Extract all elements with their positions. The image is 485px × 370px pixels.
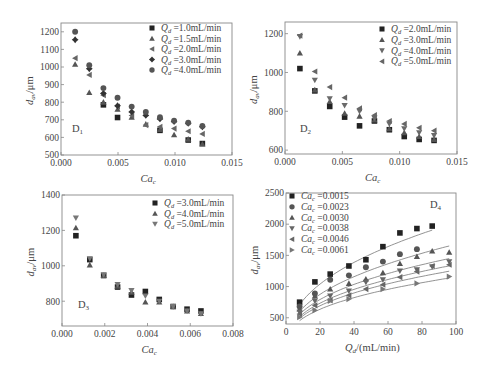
y-tick-label: 500 [45,150,60,160]
series-cac-0-0061 [297,273,452,320]
triangle-left-marker [149,46,154,52]
fit-curve [300,259,450,315]
series-qd-5-0ml-min [73,216,204,317]
triangle-down-marker [379,48,385,53]
square-marker [357,123,363,129]
chart-panel-d1: 0.0000.0050.0100.01550060070080090010001… [24,23,243,186]
triangle-up-marker [72,61,78,67]
x-tick-label: 0.005 [107,158,129,168]
series-cac-0-0030 [297,248,453,312]
y-tick-label: 800 [269,107,284,117]
y-axis-label-group: dav/μm [24,76,37,105]
square-marker [346,263,352,269]
triangle-down-marker [142,293,148,299]
series-qd-3-0ml-min [73,233,204,314]
x-axis-label: Qd/(mL/min) [345,342,400,355]
triangle-up-marker [346,280,352,286]
circle-marker [72,29,78,35]
y-axis-label: dav/μm [25,248,38,277]
diamond-plus-marker [149,56,155,62]
triangle-right-marker [414,280,420,286]
figure-canvas: 0.0000.0050.0100.01550060070080090010001… [0,0,485,370]
y-axis-label: dav/μm [248,75,261,104]
triangle-left-marker [171,126,177,132]
legend-entry: Qd =3.0mL/min [391,35,452,46]
fit-curve [300,246,450,311]
y-tick-label: 1400 [41,190,60,200]
legend-entry: Cac =0.0023 [301,202,349,213]
square-marker [73,233,79,239]
legend-entry: Qd =2.0mL/min [161,44,222,55]
y-tick-label: 1100 [40,45,59,55]
circle-marker [100,85,106,91]
y-tick-label: 1500 [265,251,284,261]
y-tick-label: 500 [270,313,285,323]
x-tick-label: 0.008 [222,329,244,339]
triangle-down-marker [312,78,318,84]
x-tick-label: 0.015 [446,157,468,167]
triangle-left-marker [401,121,407,127]
chart-panel-d2: 0.0000.0050.0100.01560080010001200Cacdav… [248,22,468,185]
y-tick-label: 1200 [264,29,283,39]
chart-panel-d3: 0.0000.0020.0040.0060.008800100012001400… [25,190,244,357]
triangle-down-marker [363,280,369,286]
circle-marker [380,259,386,265]
circle-marker [397,251,403,257]
triangle-left-marker [431,128,437,134]
y-tick-label: 700 [45,115,60,125]
x-tick-label: 40 [349,327,359,337]
circle-marker [363,264,369,270]
circle-marker [157,114,163,120]
triangle-up-marker [289,215,295,220]
y-tick-label: 2000 [265,219,284,229]
x-tick-label: 0 [284,327,289,337]
triangle-down-marker [416,130,422,136]
triangle-left-marker [397,274,403,280]
legend-entry: Qd =4.0mL/min [161,65,222,76]
triangle-up-marker [152,211,158,216]
square-marker [289,193,294,198]
legend-entry: Qd =1.5mL/min [161,34,222,45]
square-marker [327,104,333,110]
legend: Qd =2.0mL/minQd =3.0mL/minQd =4.0mL/minQ… [379,24,451,67]
square-marker [152,200,157,205]
triangle-right-marker [290,247,295,253]
triangle-up-marker [171,132,177,138]
x-tick-label: 0.010 [389,157,411,167]
legend-entry: Cac =0.0046 [301,234,349,245]
triangle-left-marker [86,72,92,78]
legend: Qd =1.0mL/minQd =1.5mL/minQd =2.0mL/minQ… [149,23,222,76]
circle-marker [143,109,149,115]
y-tick-label: 1000 [40,62,59,72]
x-axis-label: Cac [365,172,381,185]
triangle-left-marker [327,84,333,90]
circle-marker [199,123,205,129]
square-marker [429,223,435,229]
triangle-up-marker [149,36,155,41]
circle-marker [414,246,420,252]
square-marker [380,244,386,250]
x-tick-label: 0.015 [221,158,243,168]
triangle-up-marker [100,99,106,105]
x-tick-label: 0.004 [137,329,159,339]
x-tick-label: 80 [417,327,427,337]
circle-marker [346,272,352,278]
triangle-up-marker [87,262,93,268]
legend-entry: Qd =5.0mL/min [164,219,225,230]
x-tick-label: 20 [315,327,325,337]
triangle-down-marker [152,222,158,227]
triangle-up-marker [297,50,303,56]
panel-label: D2 [300,123,312,136]
legend-entry: Qd =4.0mL/min [391,46,452,57]
x-axis-label: Cac [142,344,158,357]
square-marker [149,25,154,30]
circle-marker [115,95,121,101]
triangle-left-marker [185,128,191,134]
square-marker [379,26,384,31]
circle-marker [129,104,135,110]
legend-entry: Qd =2.0mL/min [391,24,452,35]
triangle-left-marker [289,236,294,242]
triangle-left-marker [312,68,318,74]
x-tick-label: 0.002 [94,329,116,339]
x-tick-label: 60 [383,327,393,337]
